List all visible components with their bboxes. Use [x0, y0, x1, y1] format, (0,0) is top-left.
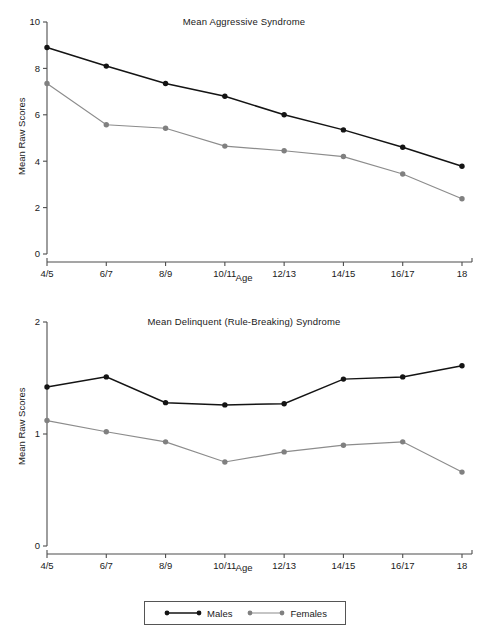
series-line-males [47, 366, 462, 405]
y-tick-label: 2 [35, 202, 40, 213]
legend-line-marker-males [163, 608, 203, 618]
data-point-males [281, 112, 286, 117]
data-point-males [341, 376, 346, 381]
x-axis-label-delinquent: Age [0, 562, 488, 573]
plot-area-aggressive: 02468104/56/78/910/1112/1314/1516/1718 [0, 0, 488, 300]
data-point-males [281, 401, 286, 406]
legend-entry-females: Females [246, 608, 326, 619]
chart-panel-delinquent: Mean Delinquent (Rule-Breaking) Syndrome… [0, 300, 488, 585]
data-point-females [44, 81, 49, 86]
data-point-males [44, 384, 49, 389]
y-tick-label: 1 [35, 428, 40, 439]
data-point-males [400, 145, 405, 150]
x-axis-label-aggressive: Age [0, 272, 488, 283]
y-tick-label: 10 [29, 16, 40, 27]
data-point-males [44, 45, 49, 50]
legend-label-males: Males [207, 608, 232, 619]
data-point-females [163, 126, 168, 131]
data-point-males [222, 94, 227, 99]
data-point-females [281, 148, 286, 153]
y-tick-label: 2 [35, 316, 40, 327]
data-point-females [281, 449, 286, 454]
data-point-males [222, 402, 227, 407]
data-point-males [459, 164, 464, 169]
y-tick-label: 0 [35, 540, 40, 551]
legend-line-marker-females [246, 608, 286, 618]
data-point-females [459, 196, 464, 201]
data-point-females [400, 439, 405, 444]
figure-two-panel-line-charts: Mean Aggressive Syndrome Mean Raw Scores… [0, 0, 488, 638]
data-point-males [459, 363, 464, 368]
data-point-females [104, 122, 109, 127]
series-line-females [47, 83, 462, 198]
legend-label-females: Females [290, 608, 326, 619]
data-point-males [163, 81, 168, 86]
data-point-females [104, 429, 109, 434]
data-point-females [163, 439, 168, 444]
data-point-females [222, 143, 227, 148]
data-point-males [400, 374, 405, 379]
y-tick-label: 4 [35, 156, 40, 167]
y-tick-label: 6 [35, 109, 40, 120]
data-point-females [341, 154, 346, 159]
plot-area-delinquent: 0124/56/78/910/1112/1314/1516/1718 [0, 300, 488, 585]
data-point-males [104, 63, 109, 68]
legend-entry-males: Males [163, 608, 232, 619]
y-tick-label: 8 [35, 63, 40, 74]
y-tick-label: 0 [35, 248, 40, 259]
chart-legend: Males Females [144, 601, 346, 625]
data-point-females [459, 469, 464, 474]
data-point-males [341, 127, 346, 132]
data-point-males [104, 374, 109, 379]
data-point-females [400, 171, 405, 176]
data-point-males [163, 400, 168, 405]
series-line-females [47, 421, 462, 473]
data-point-females [341, 443, 346, 448]
chart-panel-aggressive: Mean Aggressive Syndrome Mean Raw Scores… [0, 0, 488, 300]
data-point-females [222, 459, 227, 464]
data-point-females [44, 418, 49, 423]
